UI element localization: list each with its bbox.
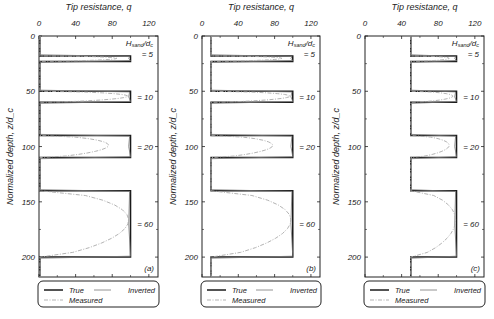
y-tick-label: 100	[348, 143, 362, 152]
x-axis-title: Tip resistance, q	[228, 2, 294, 12]
legend: TrueInvertedMeasured	[201, 281, 321, 307]
layer-thickness-label: = 10	[137, 93, 153, 102]
series-inverted	[40, 36, 130, 277]
layer-thickness-label: = 20	[463, 143, 479, 152]
panel-1: Tip resistance, q04080120050100150200Nor…	[5, 2, 159, 307]
legend-true-label: True	[69, 286, 84, 295]
y-tick-label: 50	[189, 87, 198, 96]
legend-measured-label: Measured	[395, 296, 429, 305]
layer-header-annotation: Hsand/dc	[288, 39, 315, 49]
panel-label: (b)	[306, 264, 316, 273]
panel-3: Tip resistance, q04080120050100150200Nor…	[331, 2, 485, 307]
x-tick-label: 120	[468, 19, 482, 28]
layer-thickness-label: = 20	[299, 143, 315, 152]
layer-thickness-label: = 60	[299, 220, 315, 229]
legend-true-label: True	[232, 286, 247, 295]
x-tick-label: 80	[270, 19, 279, 28]
x-tick-label: 120	[142, 19, 156, 28]
series-measured	[40, 36, 129, 277]
x-axis-title: Tip resistance, q	[66, 2, 132, 12]
layer-thickness-label: = 5	[468, 50, 480, 59]
legend-inverted-label: Inverted	[128, 286, 156, 295]
y-axis-title: Normalized depth, z/d_c	[168, 107, 178, 205]
legend-measured-label: Measured	[232, 296, 266, 305]
y-axis-title: Normalized depth, z/d_c	[331, 107, 341, 205]
x-axis-title: Tip resistance, q	[392, 2, 458, 12]
x-tick-label: 120	[304, 19, 318, 28]
y-tick-label: 0	[357, 32, 362, 41]
panel-label: (a)	[144, 264, 154, 273]
y-axis-title: Normalized depth, z/d_c	[5, 107, 15, 205]
legend-inverted-label: Inverted	[454, 286, 482, 295]
legend-measured-label: Measured	[69, 296, 103, 305]
layer-thickness-label: = 5	[304, 50, 316, 59]
x-tick-label: 0	[200, 19, 205, 28]
legend-inverted-label: Inverted	[290, 286, 318, 295]
y-tick-label: 100	[22, 143, 36, 152]
y-tick-label: 150	[348, 198, 362, 207]
legend: TrueInvertedMeasured	[38, 281, 159, 307]
x-tick-label: 40	[71, 19, 80, 28]
y-tick-label: 0	[31, 32, 36, 41]
y-tick-label: 0	[194, 32, 199, 41]
x-tick-label: 0	[37, 19, 42, 28]
y-tick-label: 50	[352, 87, 361, 96]
series-true	[40, 36, 131, 277]
plot-frame	[202, 36, 320, 277]
y-tick-label: 50	[26, 87, 35, 96]
x-tick-label: 80	[434, 19, 443, 28]
legend: TrueInvertedMeasured	[364, 281, 485, 307]
panel-label: (c)	[471, 264, 481, 273]
y-tick-label: 200	[347, 253, 362, 262]
y-tick-label: 200	[184, 253, 199, 262]
y-tick-label: 150	[22, 198, 36, 207]
layer-thickness-label: = 10	[299, 93, 315, 102]
layer-thickness-label: = 5	[142, 50, 154, 59]
y-tick-label: 150	[185, 198, 199, 207]
legend-true-label: True	[395, 286, 410, 295]
layer-thickness-label: = 60	[463, 220, 479, 229]
layer-header-annotation: Hsand/dc	[452, 39, 479, 49]
series-measured	[211, 36, 291, 277]
panel-2: Tip resistance, q04080120050100150200Nor…	[168, 2, 321, 307]
layer-header-annotation: Hsand/dc	[126, 39, 153, 49]
series-measured	[411, 36, 456, 277]
x-tick-label: 40	[397, 19, 406, 28]
x-tick-label: 0	[363, 19, 368, 28]
layer-thickness-label: = 20	[137, 143, 153, 152]
x-tick-label: 80	[108, 19, 117, 28]
layer-thickness-label: = 10	[463, 93, 479, 102]
y-tick-label: 100	[185, 143, 199, 152]
x-tick-label: 40	[234, 19, 243, 28]
layer-thickness-label: = 60	[137, 220, 153, 229]
chart-figure: Tip resistance, q04080120050100150200Nor…	[0, 0, 494, 319]
y-tick-label: 200	[21, 253, 36, 262]
